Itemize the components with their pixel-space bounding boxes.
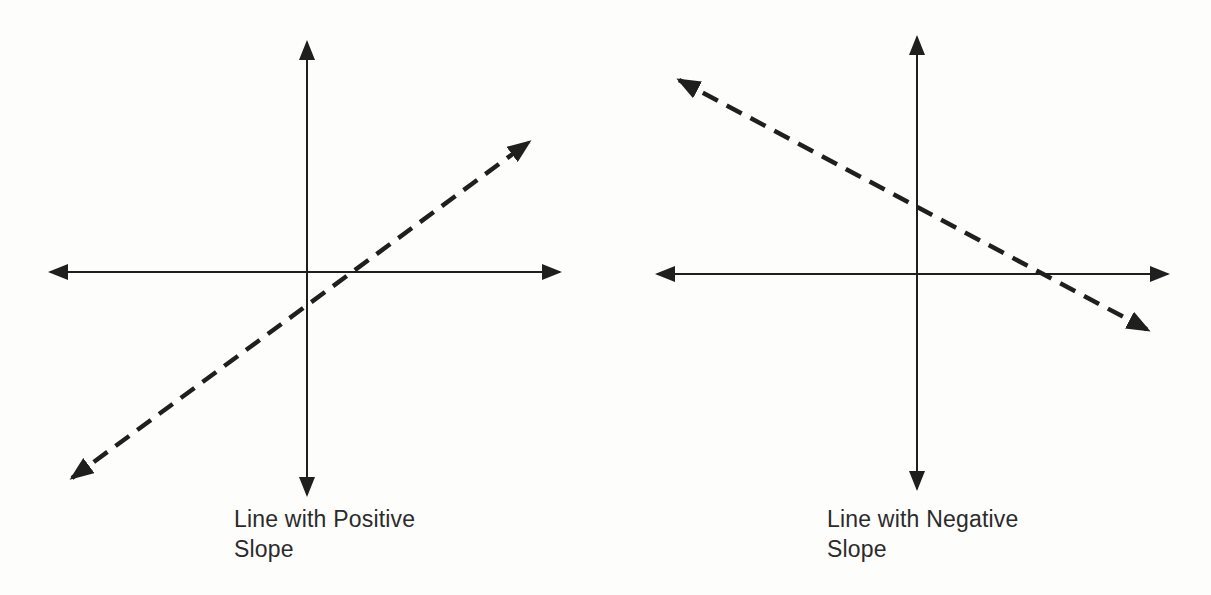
caption-line: Line with Negative xyxy=(827,504,1019,534)
diagram-canvas xyxy=(0,0,1211,595)
caption-line: Slope xyxy=(234,534,415,564)
negative-slope-caption: Line with Negative Slope xyxy=(827,504,1019,564)
negative-slope-line xyxy=(679,80,1148,330)
negative-slope-figure xyxy=(657,37,1168,489)
positive-slope-caption: Line with Positive Slope xyxy=(234,504,415,564)
positive-slope-figure xyxy=(50,42,560,495)
caption-line: Slope xyxy=(827,534,1019,564)
caption-line: Line with Positive xyxy=(234,504,415,534)
positive-slope-line xyxy=(72,142,529,478)
scanned-diagram-page: Line with Positive Slope Line with Negat… xyxy=(0,0,1211,595)
